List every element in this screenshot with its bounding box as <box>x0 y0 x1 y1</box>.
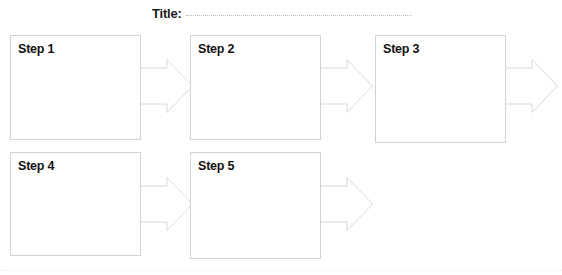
step-label-2: Step 2 <box>198 42 234 56</box>
step-box-3[interactable]: Step 3 <box>375 35 506 143</box>
title-write-in-line[interactable] <box>186 14 412 16</box>
flowchart-worksheet: Title: Step 1 Step 2 <box>0 0 562 275</box>
arrow-step1-to-step2 <box>134 59 194 113</box>
arrow-step5-out <box>314 177 374 231</box>
arrow-step2-to-step3 <box>314 59 374 113</box>
step-label-5: Step 5 <box>198 159 234 173</box>
title-label: Title: <box>152 6 182 21</box>
title-row: Title: <box>152 6 412 24</box>
step-box-2[interactable]: Step 2 <box>190 35 321 140</box>
arrow-step3-out <box>499 59 562 113</box>
step-label-4: Step 4 <box>18 159 54 173</box>
bottom-divider <box>0 269 562 271</box>
arrow-step4-to-step5 <box>134 177 194 231</box>
step-box-1[interactable]: Step 1 <box>10 35 141 140</box>
step-label-3: Step 3 <box>383 42 419 56</box>
step-box-5[interactable]: Step 5 <box>190 152 321 259</box>
step-label-1: Step 1 <box>18 42 54 56</box>
step-box-4[interactable]: Step 4 <box>10 152 141 256</box>
